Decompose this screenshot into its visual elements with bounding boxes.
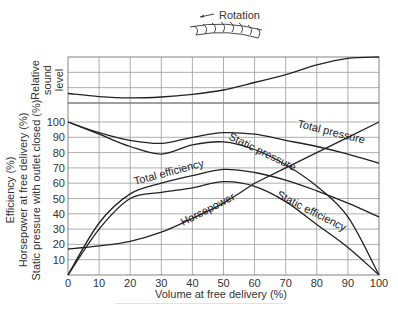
static-efficiency-label: Static efficiency <box>275 188 349 234</box>
rotation-diagram: Rotation <box>190 9 262 38</box>
total-pressure-label: Total pressure <box>297 117 367 145</box>
horsepower-label: Horsepower <box>178 190 237 228</box>
y-tick-label: 40 <box>53 208 65 220</box>
rotation-label: Rotation <box>219 9 260 21</box>
x-tick-label: 0 <box>65 277 71 289</box>
x-tick-label: 80 <box>311 277 323 289</box>
sound-ylabel-1: Relative <box>29 60 41 100</box>
y-axis-label-3: Static pressure with outlet closed (%) <box>30 100 42 281</box>
x-tick-label: 100 <box>370 277 388 289</box>
y-tick-label: 30 <box>53 223 65 235</box>
x-tick-label: 90 <box>342 277 354 289</box>
y-tick-label: 60 <box>53 177 65 189</box>
sound-ylabel-2: sound <box>41 65 53 95</box>
y-axis-label-2: Horsepower at free delivery (%) <box>17 113 29 268</box>
main-panel: 102030405060708090100 010203040506070809… <box>4 100 388 300</box>
sound-ylabel-3: level <box>53 69 65 92</box>
x-tick-label: 10 <box>93 277 105 289</box>
y-tick-label: 100 <box>47 116 65 128</box>
impeller-blades-icon <box>190 22 262 38</box>
y-tick-label: 20 <box>53 238 65 250</box>
y-tick-label: 10 <box>53 254 65 266</box>
arrowhead-icon <box>200 15 204 18</box>
y-tick-label: 90 <box>53 131 65 143</box>
y-tick-label: 70 <box>53 162 65 174</box>
total-efficiency-label: Total efficiency <box>132 157 205 187</box>
fan-performance-chart: Rotation Relative sound level 1020304050… <box>0 0 398 313</box>
x-tick-label: 20 <box>124 277 136 289</box>
y-axis-label-1: Efficiency (%) <box>4 156 16 223</box>
caption-faint <box>115 303 285 304</box>
static-pressure-label: Static pressure <box>227 130 298 173</box>
x-axis-label: Volume at free delivery (%) <box>155 288 287 300</box>
y-tick-label: 50 <box>53 193 65 205</box>
sound-panel: Relative sound level <box>29 57 379 103</box>
y-tick-label: 80 <box>53 147 65 159</box>
